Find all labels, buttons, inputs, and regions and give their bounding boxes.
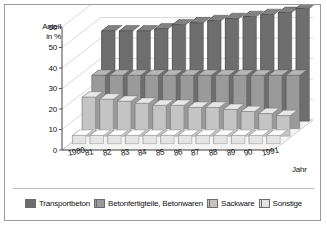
bars-group xyxy=(72,5,316,144)
y-tick-label: 30 xyxy=(41,84,57,93)
legend-swatch-icon xyxy=(259,199,270,208)
chart-legend: TransportbetonBetonfertigteile, Betonwar… xyxy=(10,195,317,211)
legend-item[interactable]: Transportbeton xyxy=(25,199,90,208)
legend-swatch-icon xyxy=(94,199,105,208)
y-tick-label: 0 xyxy=(41,146,57,155)
y-tick-label: 60 xyxy=(41,23,57,32)
y-axis-title-line2: in % xyxy=(15,32,61,41)
legend-swatch-icon xyxy=(25,199,36,208)
y-tick-label: 20 xyxy=(41,105,57,114)
legend-item[interactable]: Sonstige xyxy=(259,199,303,208)
y-tick-label: 40 xyxy=(41,64,57,73)
legend-label: Sackware xyxy=(221,199,255,208)
y-tick-label: 10 xyxy=(41,125,57,134)
x-axis-title: Jahr xyxy=(292,165,307,174)
legend-label: Sonstige xyxy=(273,199,303,208)
legend-item[interactable]: Sackware xyxy=(207,199,255,208)
chart-frame: Anteil in % Jahr 6050403020100 198081828… xyxy=(4,4,321,221)
y-tick-label: 50 xyxy=(41,43,57,52)
legend-item[interactable]: Betonfertigteile, Betonwaren xyxy=(94,199,203,208)
legend-swatch-icon xyxy=(207,199,218,208)
legend-label: Betonfertigteile, Betonwaren xyxy=(108,199,203,208)
legend-divider xyxy=(13,188,314,189)
legend-label: Transportbeton xyxy=(39,199,90,208)
